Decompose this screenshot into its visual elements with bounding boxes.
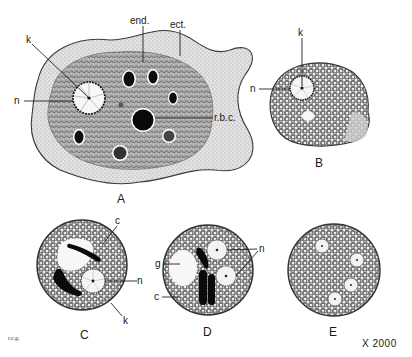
panel-c-uninucleate-cyst: c n k C	[37, 215, 143, 342]
label-ectoplasm: ect.	[170, 19, 186, 30]
nucleus-d1	[207, 240, 227, 260]
artist-signature: r.c.g.	[8, 335, 20, 341]
panel-e-quadrinucleate-cyst: E	[288, 224, 380, 339]
panel-b-precyst: k n B	[250, 27, 369, 170]
karyosome	[300, 86, 303, 89]
label-karyosome-a: k	[26, 34, 32, 45]
label-chromatoid-c: c	[115, 215, 120, 226]
label-karyosome-b: k	[298, 27, 304, 38]
glycogen-vacuole	[169, 250, 197, 286]
label-glycogen-d: g	[155, 258, 161, 269]
figure-canvas: k n end. ect. r.b.c. A k n B	[0, 0, 412, 357]
label-nuclei-d: n	[259, 243, 265, 254]
chromatoid-body	[208, 274, 215, 305]
caption-c: C	[80, 328, 89, 342]
label-karyosome-c: k	[123, 315, 129, 326]
caption-a: A	[117, 192, 125, 206]
label-nucleus-b: n	[250, 83, 256, 94]
label-nucleus-a: n	[14, 95, 20, 106]
label-endoplasm: end.	[130, 15, 149, 26]
chromatoid-body	[199, 270, 207, 305]
magnification-label: X 2000	[362, 338, 397, 349]
panel-a-trophozoite: k n end. ect. r.b.c. A	[14, 15, 253, 206]
nucleus-d2	[216, 266, 236, 286]
label-nucleus-c: n	[137, 275, 143, 286]
label-chromatoid-d: c	[154, 291, 159, 302]
panel-d-binucleate-cyst: g c n D	[154, 225, 265, 339]
caption-e: E	[329, 325, 337, 339]
label-red-blood-cell: r.b.c.	[214, 112, 236, 123]
nucleus-c	[81, 269, 105, 293]
caption-d: D	[203, 325, 212, 339]
endoplasm	[48, 52, 213, 170]
caption-b: B	[315, 156, 323, 170]
